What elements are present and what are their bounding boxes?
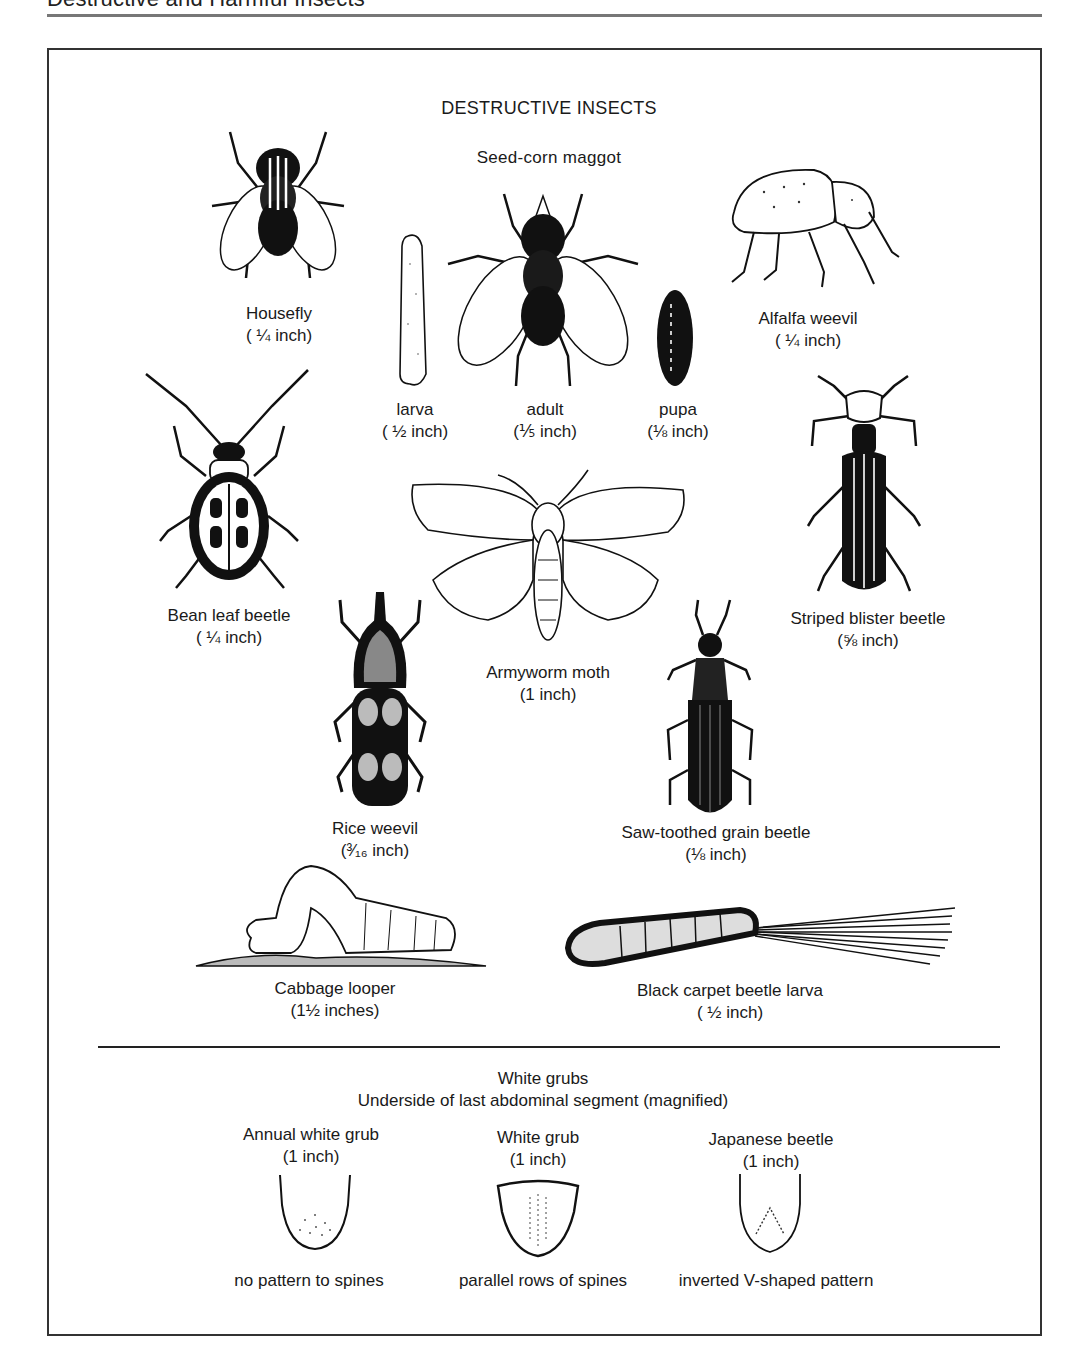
header-rule xyxy=(47,14,1042,17)
armyworm-moth-label: Armyworm moth (1 inch) xyxy=(486,662,610,706)
larva-label: larva ( ½ inch) xyxy=(382,399,448,443)
page-header: Destructive and Harmful Insects xyxy=(47,0,365,12)
bean-leaf-beetle-illustration xyxy=(146,366,311,594)
bean-leaf-beetle-label: Bean leaf beetle ( ¼ inch) xyxy=(168,605,291,649)
black-carpet-beetle-larva-illustration xyxy=(560,898,960,974)
section-divider xyxy=(98,1046,1000,1048)
black-carpet-beetle-larva-label: Black carpet beetle larva ( ½ inch) xyxy=(637,980,823,1024)
grub-white-label: White grub (1 inch) xyxy=(497,1127,579,1171)
housefly-illustration xyxy=(208,128,348,288)
grub-white-pattern: parallel rows of spines xyxy=(459,1270,627,1292)
housefly-label: Housefly ( ¼ inch) xyxy=(246,303,312,347)
rice-weevil-illustration xyxy=(330,592,430,810)
grub-annual-label: Annual white grub (1 inch) xyxy=(243,1124,379,1168)
grub-japanese-label: Japanese beetle (1 inch) xyxy=(709,1129,834,1173)
saw-toothed-grain-beetle-illustration xyxy=(658,600,762,818)
seed-corn-maggot-title: Seed-corn maggot xyxy=(477,148,622,168)
saw-toothed-grain-beetle-label: Saw-toothed grain beetle (⅛ inch) xyxy=(621,822,810,866)
grub-japanese-spines-illustration xyxy=(728,1174,812,1258)
section-title: DESTRUCTIVE INSECTS xyxy=(441,98,657,119)
striped-blister-beetle-illustration xyxy=(804,376,924,598)
grub-annual-pattern: no pattern to spines xyxy=(234,1270,383,1292)
armyworm-moth-illustration xyxy=(408,470,688,648)
cabbage-looper-label: Cabbage looper (1½ inches) xyxy=(275,978,396,1022)
rice-weevil-label: Rice weevil (³⁄₁₆ inch) xyxy=(332,818,418,862)
maggot-larva-illustration xyxy=(396,234,430,388)
cabbage-looper-illustration xyxy=(196,858,486,970)
alfalfa-weevil-label: Alfalfa weevil ( ¼ inch) xyxy=(758,308,857,352)
striped-blister-beetle-label: Striped blister beetle (⅝ inch) xyxy=(791,608,946,652)
alfalfa-weevil-illustration xyxy=(724,162,904,294)
white-grubs-heading: White grubs Underside of last abdominal … xyxy=(358,1068,728,1112)
maggot-adult-illustration xyxy=(448,186,638,391)
pupa-label: pupa (⅛ inch) xyxy=(647,399,708,443)
grub-annual-spines-illustration xyxy=(270,1175,360,1259)
grub-japanese-pattern: inverted V-shaped pattern xyxy=(679,1270,874,1292)
maggot-pupa-illustration xyxy=(655,286,695,390)
grub-white-spines-illustration xyxy=(490,1172,586,1262)
adult-label: adult (⅕ inch) xyxy=(513,399,577,443)
